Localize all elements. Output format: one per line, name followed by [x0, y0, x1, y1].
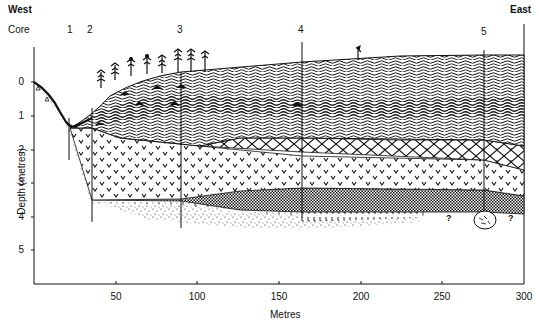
core-4-label: 4 — [298, 24, 304, 35]
y-tick-1: 1 — [10, 110, 24, 121]
west-label: West — [8, 4, 32, 15]
lake-sediment-dense — [300, 210, 420, 222]
boulder-icon — [474, 211, 496, 229]
wood-fragments — [95, 84, 303, 125]
y-tick-0: 0 — [10, 76, 24, 87]
y-tick-5: 5 — [10, 244, 24, 255]
surface-peat-layer — [70, 55, 524, 146]
triangle-markers — [36, 86, 49, 101]
basin-edge — [34, 82, 92, 127]
sand-layer — [34, 82, 420, 230]
x-axis-label: Metres — [270, 309, 301, 320]
core-label: Core — [8, 24, 30, 35]
clay-layer — [92, 188, 524, 214]
sedge-peat-layer — [200, 138, 524, 170]
uncertain-marker: ? — [508, 213, 514, 223]
core-5-label: 5 — [481, 26, 487, 37]
x-tick-150: 150 — [271, 291, 288, 302]
x-tick-50: 50 — [110, 291, 121, 302]
x-tick-250: 250 — [434, 291, 451, 302]
core-lines — [69, 42, 484, 228]
fen-peat-layer — [70, 128, 524, 200]
x-tick-300: 300 — [516, 291, 533, 302]
core-2-label: 2 — [87, 24, 93, 35]
lake-sediment-layer — [92, 197, 430, 220]
east-label: East — [510, 4, 531, 15]
stratigraphic-cross-section — [0, 0, 539, 327]
x-tick-100: 100 — [189, 291, 206, 302]
core-1-label: 1 — [67, 24, 73, 35]
core-3-label: 3 — [177, 24, 183, 35]
tree-icons — [97, 46, 361, 88]
uncertain-marker: ? — [446, 213, 452, 223]
wood-peat-band — [90, 95, 524, 125]
y-axis-label: Depth (metres) — [16, 147, 27, 217]
x-tick-200: 200 — [353, 291, 370, 302]
